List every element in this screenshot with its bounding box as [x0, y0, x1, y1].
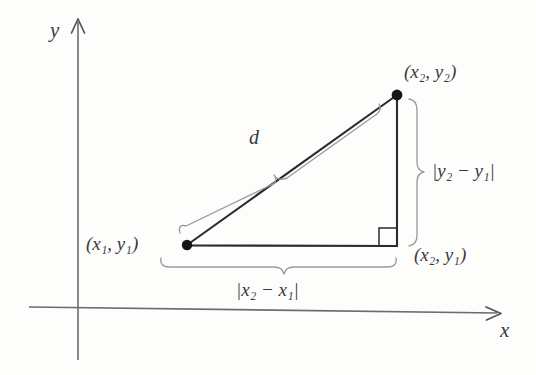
triangle-horizontal-leg — [186, 246, 398, 247]
x-axis-line — [29, 307, 497, 313]
brace-vertical-leg — [409, 99, 424, 246]
horizontal-leg-length-label: |x₂ − x₁| — [236, 280, 299, 299]
x-axis-label: x — [500, 320, 509, 341]
point-label-upper-right: (x₂, y₂) — [404, 62, 456, 81]
vertex-dot-lower-left — [182, 240, 192, 250]
x-axis — [29, 307, 501, 320]
right-triangle — [186, 95, 398, 246]
hypotenuse-length-label: d — [249, 127, 259, 147]
triangle-hypotenuse — [187, 95, 397, 245]
diagram-canvas: y x (x₁, y₁) (x₂, y₂) (x₂, y₁) d |y₂ − y… — [0, 0, 536, 375]
brace-hypotenuse — [179, 104, 380, 233]
point-label-lower-right: (x₂, y₁) — [414, 245, 466, 264]
vertical-leg-length-label: |y₂ − y₁| — [432, 161, 495, 180]
brace-horizontal-leg — [161, 258, 396, 274]
point-label-lower-left: (x₁, y₁) — [86, 234, 138, 253]
y-axis-label: y — [50, 20, 59, 41]
distance-formula-figure — [0, 0, 536, 375]
y-axis — [72, 19, 85, 360]
right-angle-square — [379, 228, 397, 246]
vertex-dot-upper-right — [392, 90, 403, 101]
